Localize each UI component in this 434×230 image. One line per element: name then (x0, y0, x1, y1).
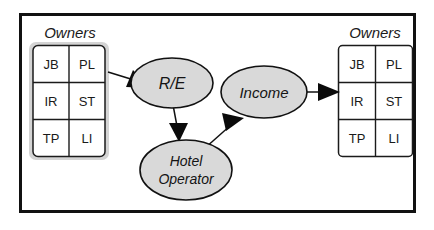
table-cell: JB (349, 57, 364, 72)
owners-left-table-group[interactable]: Owners JB PL IR ST TP LI (29, 24, 109, 160)
table-cell: IR (351, 94, 364, 109)
ownership-flow-diagram: Owners JB PL IR ST TP LI Owners (0, 0, 434, 230)
table-cell: ST (79, 94, 96, 109)
node-income-label: Income (239, 84, 288, 101)
table-cell: LI (82, 131, 93, 146)
node-hotel-operator-shape (140, 140, 232, 200)
diagram-canvas: Owners JB PL IR ST TP LI Owners (0, 0, 434, 230)
table-cell: JB (43, 57, 58, 72)
table-cell: TP (349, 131, 366, 146)
table-cell: PL (79, 57, 95, 72)
table-cell: ST (386, 94, 403, 109)
owners-left-title: Owners (44, 24, 96, 41)
node-hotel-operator-label-line1: Hotel (170, 153, 204, 169)
table-cell: PL (386, 57, 402, 72)
node-income[interactable]: Income (221, 66, 307, 118)
node-hotel-operator[interactable]: Hotel Operator (140, 140, 232, 200)
table-cell: IR (45, 94, 58, 109)
owners-right-title: Owners (349, 24, 401, 41)
node-hotel-operator-label-line2: Operator (158, 171, 215, 187)
node-re-label: R/E (159, 75, 186, 92)
table-cell: LI (389, 131, 400, 146)
node-re[interactable]: R/E (131, 58, 213, 108)
table-cell: TP (43, 131, 60, 146)
